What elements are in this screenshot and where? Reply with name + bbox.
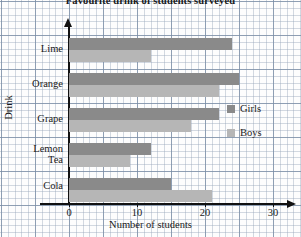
bar-grape-girls	[69, 108, 219, 120]
category-label-orange: Orange	[32, 78, 63, 89]
bar-lime-girls	[69, 38, 232, 50]
chart-title: Favourite drink of students surveyed	[0, 0, 301, 6]
bar-cola-girls	[69, 178, 171, 190]
bar-orange-boys	[69, 85, 219, 97]
plot-area	[69, 26, 301, 204]
x-axis-label: Number of students	[0, 219, 301, 230]
legend: Girls Boys	[227, 103, 262, 151]
bar-chart: Favourite drink of students surveyed Dri…	[0, 0, 301, 237]
legend-swatch-girls-icon	[227, 105, 235, 113]
bar-orange-girls	[69, 73, 239, 85]
bar-lemon-tea-boys	[69, 155, 130, 167]
bar-lime-boys	[69, 50, 151, 62]
category-label-cola: Cola	[43, 180, 63, 191]
legend-label-boys: Boys	[240, 127, 262, 138]
bar-lemon-tea-girls	[69, 143, 151, 155]
legend-label-girls: Girls	[240, 103, 261, 114]
legend-item-girls: Girls	[227, 103, 262, 114]
x-tick-label-20: 20	[200, 207, 211, 218]
category-label-lemon-tea-line2: Tea	[48, 154, 63, 165]
legend-swatch-boys-icon	[227, 129, 235, 137]
x-tick-label-30: 30	[268, 207, 279, 218]
x-tick-label-10: 10	[132, 207, 143, 218]
legend-item-boys: Boys	[227, 127, 262, 138]
category-label-lime: Lime	[41, 43, 63, 54]
x-tick-label-0: 0	[66, 207, 71, 218]
y-axis-label: Drink	[3, 95, 14, 120]
bar-grape-boys	[69, 120, 191, 132]
bar-cola-boys	[69, 190, 212, 202]
category-label-grape: Grape	[37, 113, 63, 124]
category-label-lemon-tea-line1: Lemon	[33, 143, 63, 154]
